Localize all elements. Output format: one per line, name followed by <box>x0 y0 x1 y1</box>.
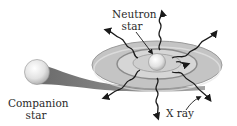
companion-star-label-line2: star <box>8 109 64 121</box>
companion-star <box>25 60 50 85</box>
neutron-star-label: Neutron star <box>112 8 152 32</box>
neutron-star-label-line2: star <box>112 20 152 32</box>
x-ray-label: X ray <box>162 107 198 119</box>
companion-star-label: Companion star <box>8 97 64 121</box>
neutron-star-label-line1: Neutron <box>112 8 152 20</box>
neutron-star <box>149 54 166 71</box>
companion-star-label-line1: Companion <box>8 97 64 109</box>
x-ray-label-text: X ray <box>166 107 194 119</box>
